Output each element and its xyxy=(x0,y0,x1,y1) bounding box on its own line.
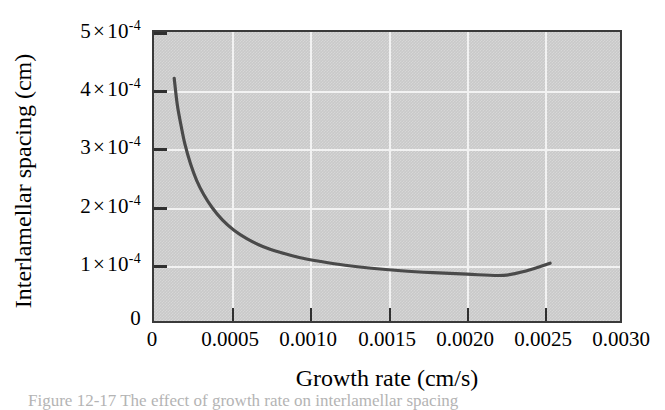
x-tick-label-0.0025: 0.0025 xyxy=(514,329,572,350)
chart-figure: 5×10-4 4×10-4 3×10-4 2×10-4 1×10-4 0 0 0… xyxy=(0,0,665,410)
figure-caption: Figure 12-17 The effect of growth rate o… xyxy=(28,392,648,410)
y-label-base-5: 10 xyxy=(107,19,129,43)
plot-area xyxy=(152,30,622,323)
y-tick-label-2e-4: 2×10-4 xyxy=(80,196,141,217)
y-label-mantissa-4: 4 xyxy=(80,77,91,101)
y-label-exponent-5: -4 xyxy=(129,18,141,33)
y-label-base-1: 10 xyxy=(107,252,129,276)
y-tick-label-0: 0 xyxy=(130,308,141,329)
data-curve xyxy=(154,32,620,321)
x-tick-label-0.0015: 0.0015 xyxy=(358,329,416,350)
y-label-mantissa-3: 3 xyxy=(80,135,91,159)
y-tick-label-5e-4: 5×10-4 xyxy=(80,21,141,42)
curve-path xyxy=(174,78,550,275)
y-tick-label-4e-4: 4×10-4 xyxy=(80,79,141,100)
x-tick-label-0.0020: 0.0020 xyxy=(436,329,494,350)
y-label-mantissa-5: 5 xyxy=(80,19,91,43)
x-tick-label-0.0010: 0.0010 xyxy=(279,329,337,350)
y-axis-title: Interlamellar spacing (cm) xyxy=(10,31,36,331)
y-label-base-3: 10 xyxy=(107,135,129,159)
x-tick-label-0.0005: 0.0005 xyxy=(201,329,259,350)
x-tick-label-0.0030: 0.0030 xyxy=(592,329,650,350)
y-label-exponent-4: -4 xyxy=(129,76,141,91)
y-label-mantissa-2: 2 xyxy=(80,194,91,218)
times-symbol-5: × xyxy=(91,19,107,43)
x-tick-label-group: 0 0.0005 0.0010 0.0015 0.0020 0.0025 0.0… xyxy=(0,329,665,359)
times-symbol-4: × xyxy=(91,77,107,101)
y-label-exponent-3: -4 xyxy=(129,134,141,149)
y-tick-label-3e-4: 3×10-4 xyxy=(80,137,141,158)
x-tick-label-0: 0 xyxy=(147,329,158,350)
y-label-exponent-1: -4 xyxy=(129,251,141,266)
y-label-exponent-2: -4 xyxy=(129,193,141,208)
y-label-base-4: 10 xyxy=(107,77,129,101)
y-label-mantissa-0: 0 xyxy=(130,306,141,330)
y-label-mantissa-1: 1 xyxy=(80,252,91,276)
times-symbol-3: × xyxy=(91,135,107,159)
times-symbol-1: × xyxy=(91,252,107,276)
x-axis-title: Growth rate (cm/s) xyxy=(152,365,622,391)
y-tick-label-1e-4: 1×10-4 xyxy=(80,254,141,275)
y-label-base-2: 10 xyxy=(107,194,129,218)
times-symbol-2: × xyxy=(91,194,107,218)
